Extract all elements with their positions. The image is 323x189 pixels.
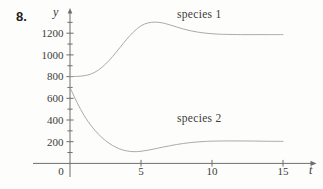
- y-axis-arrow-icon: [68, 8, 73, 14]
- y-tick-label-400: 400: [47, 114, 64, 126]
- curve-species-1: [70, 22, 283, 76]
- y-tick-label-1200: 1200: [42, 27, 65, 39]
- y-tick-label-600: 600: [47, 92, 64, 104]
- y-tick-label-800: 800: [47, 70, 64, 82]
- curve-species-2: [70, 87, 283, 151]
- y-tick-label-1000: 1000: [42, 49, 65, 61]
- population-line-chart: 05101520040060080010001200: [0, 0, 323, 189]
- y-tick-label-200: 200: [47, 136, 64, 148]
- x-tick-label-0: 0: [58, 165, 64, 177]
- x-tick-label-5: 5: [138, 165, 144, 177]
- x-tick-label-10: 10: [207, 165, 219, 177]
- x-axis-arrow-icon: [311, 161, 317, 166]
- x-tick-label-15: 15: [278, 165, 290, 177]
- textbook-figure: 8. y t species 1 species 2 0510152004006…: [0, 0, 323, 189]
